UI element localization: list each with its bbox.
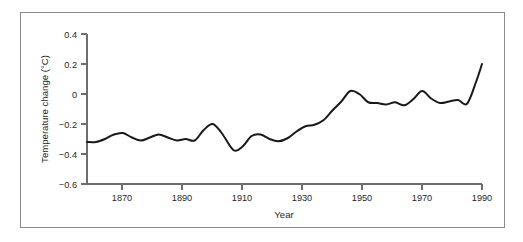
y-tick-label--0.4: −0.4 [59, 150, 77, 160]
y-axis-title: Temperature change (°C) [39, 55, 50, 163]
temperature-change-line-chart: 0.4 0.2 0 −0.2 −0.4 −0.6 1870 1890 1910 [21, 13, 504, 227]
x-tick-label-1970: 1970 [412, 193, 432, 203]
y-tick-label--0.6: −0.6 [59, 180, 77, 190]
figure-container: 0.4 0.2 0 −0.2 −0.4 −0.6 1870 1890 1910 [0, 0, 523, 242]
x-tick-label-1870: 1870 [112, 193, 132, 203]
y-axis: 0.4 0.2 0 −0.2 −0.4 −0.6 [59, 30, 87, 190]
x-axis: 1870 1890 1910 1930 1950 1970 1990 [87, 184, 492, 203]
y-tick-label-0.2: 0.2 [64, 60, 77, 70]
x-tick-label-1910: 1910 [232, 193, 252, 203]
y-tick-label--0.2: −0.2 [59, 120, 77, 130]
x-axis-title: Year [274, 209, 294, 220]
y-tick-label-0: 0 [72, 90, 77, 100]
x-tick-label-1990: 1990 [472, 193, 492, 203]
x-tick-label-1950: 1950 [352, 193, 372, 203]
temperature-series-line [87, 64, 482, 151]
x-tick-label-1890: 1890 [172, 193, 192, 203]
figure-frame-border: 0.4 0.2 0 −0.2 −0.4 −0.6 1870 1890 1910 [20, 12, 505, 228]
y-tick-label-0.4: 0.4 [64, 30, 77, 40]
x-tick-label-1930: 1930 [292, 193, 312, 203]
